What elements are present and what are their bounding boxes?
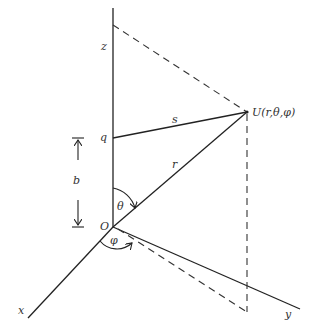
z-axis-label: z (100, 40, 107, 53)
y-axis-label: y (284, 308, 292, 321)
y-axis (113, 227, 300, 309)
theta-label: θ (117, 200, 124, 213)
spherical-coordinates-diagram: z q s r U(r,θ,φ) b θ O φ x y (0, 0, 316, 335)
U-label: U(r,θ,φ) (252, 106, 295, 119)
dashed-O-to-projection (118, 229, 247, 312)
origin-label: O (100, 220, 109, 233)
phi-label: φ (110, 234, 118, 247)
q-label: q (100, 131, 107, 144)
r-label: r (172, 158, 178, 171)
b-label: b (73, 174, 80, 187)
radius-line-r (113, 112, 247, 227)
s-label: s (172, 113, 178, 126)
segment-s (113, 112, 247, 138)
x-axis-label: x (18, 304, 25, 317)
point-U-marker (245, 110, 248, 113)
dashed-z-to-U (113, 25, 247, 112)
x-axis (28, 227, 113, 318)
